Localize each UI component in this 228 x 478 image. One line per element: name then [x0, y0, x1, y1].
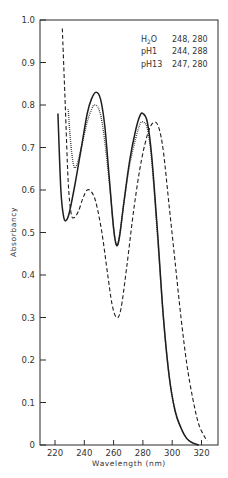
series-line-dotted [68, 105, 198, 445]
y-tick-label: 0.6 [21, 185, 35, 195]
x-tick-label: 300 [164, 448, 180, 458]
x-tick-label: 240 [76, 448, 92, 458]
legend-label-ph1: pH1 [141, 47, 157, 56]
legend-maxima-ph13: 247, 280 [172, 60, 208, 69]
y-tick-label: 0.8 [21, 100, 35, 110]
legend: H2O 248, 280 pH1 244, 288 pH13 247, 280 [141, 35, 208, 69]
x-tick-label: 280 [135, 448, 151, 458]
y-tick-label: 0.3 [21, 313, 35, 323]
x-axis-title: Wavelength (nm) [92, 459, 166, 468]
y-tick-label: 0 [30, 440, 35, 450]
x-tick-label: 260 [105, 448, 121, 458]
y-axis-title: Absorbancy [9, 207, 18, 257]
legend-maxima-h2o: 248, 280 [172, 35, 208, 44]
y-tick-label: 0.1 [21, 398, 35, 408]
x-tick-label: 320 [193, 448, 209, 458]
series-line-solid [58, 92, 199, 445]
legend-maxima-ph1: 244, 288 [172, 47, 208, 56]
legend-label-h2o: H2O [141, 35, 157, 45]
absorbance-spectrum-chart: 220240260280300320 00.10.20.30.40.50.60.… [0, 0, 228, 478]
series-line-dashed [62, 29, 207, 441]
legend-label-ph13: pH13 [141, 60, 162, 69]
y-tick-label: 0.4 [21, 270, 35, 280]
y-tick-label: 0.5 [21, 228, 35, 238]
y-axis-ticks: 00.10.20.30.40.50.60.70.80.91.0 [21, 15, 46, 450]
y-tick-label: 0.9 [21, 58, 35, 68]
y-tick-label: 1.0 [21, 15, 35, 25]
plot-frame [40, 20, 218, 445]
y-tick-label: 0.2 [21, 355, 35, 365]
y-tick-label: 0.7 [21, 143, 35, 153]
x-axis-ticks: 220240260280300320 [47, 440, 210, 458]
series-layer [58, 29, 207, 446]
x-tick-label: 220 [47, 448, 63, 458]
